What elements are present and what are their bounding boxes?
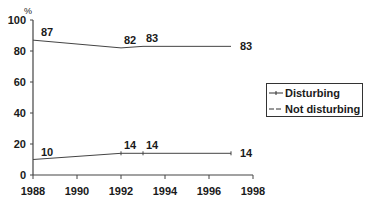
legend-item-not-disturbing: Not disturbing [269,101,360,116]
data-label: 10 [41,146,53,158]
x-tick-label: 1996 [197,185,221,197]
y-tick-label: 0 [20,169,26,181]
dashed-line-icon [269,104,283,114]
data-label: 14 [124,139,137,151]
legend-item-disturbing: Disturbing [269,85,340,100]
y-tick-label: 20 [14,138,26,150]
data-label: 82 [124,34,136,46]
data-label: 14 [146,139,159,151]
data-label: 83 [146,32,158,44]
x-tick-label: 1988 [21,185,45,197]
y-unit-label: % [24,6,32,16]
y-tick-label: 60 [14,76,26,88]
data-label: 14 [240,147,253,159]
y-tick-label: 40 [14,107,26,119]
data-label: 83 [240,40,252,52]
x-tick-label: 1998 [241,185,265,197]
x-tick-label: 1992 [109,185,133,197]
series-line-0 [33,153,231,159]
legend: Disturbing Not disturbing [266,83,363,117]
x-tick-label: 1990 [65,185,89,197]
data-label: 87 [41,26,53,38]
solid-line-marker-icon [269,88,283,98]
legend-label: Disturbing [285,87,340,99]
y-tick-label: 80 [14,45,26,57]
legend-label: Not disturbing [285,103,360,115]
x-tick-label: 1994 [153,185,178,197]
